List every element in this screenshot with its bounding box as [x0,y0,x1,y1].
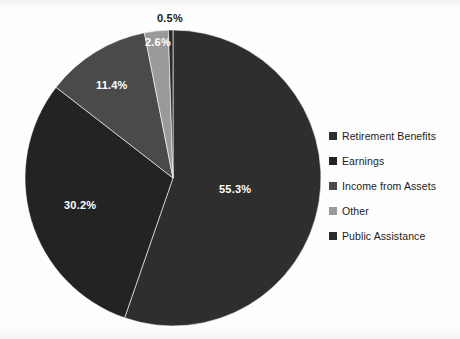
legend-item-label: Public Assistance [342,230,425,242]
slice-percent-label: 30.2% [64,199,96,211]
legend-item[interactable]: Other [329,199,457,222]
legend-item[interactable]: Public Assistance [329,224,457,247]
slice-percent-label: 11.4% [96,79,128,91]
slice-percent-label: 0.5% [157,12,183,24]
slice-percent-label: 2.6% [145,36,171,48]
legend-item-label: Income from Assets [342,180,436,192]
pie-slice-group [25,30,321,326]
pie-chart-figure: 55.3%30.2%11.4%2.6%0.5% Retirement Benef… [0,0,460,339]
legend-swatch-icon [329,157,337,165]
legend-item-label: Earnings [342,155,384,167]
legend-item[interactable]: Earnings [329,149,457,172]
legend-swatch-icon [329,232,337,240]
legend-item[interactable]: Retirement Benefits [329,124,457,147]
legend-item[interactable]: Income from Assets [329,174,457,197]
chart-legend: Retirement BenefitsEarningsIncome from A… [329,124,457,249]
legend-item-label: Retirement Benefits [342,130,436,142]
legend-swatch-icon [329,132,337,140]
legend-swatch-icon [329,207,337,215]
slice-percent-label: 55.3% [219,183,251,195]
legend-swatch-icon [329,182,337,190]
legend-item-label: Other [342,205,369,217]
